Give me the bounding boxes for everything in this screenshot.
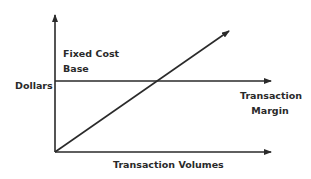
fixed-cost-label-line1: Fixed Cost <box>63 46 119 61</box>
margin-label-line1: Transaction <box>240 88 300 103</box>
y-axis-label: Dollars <box>15 78 53 93</box>
fixed-cost-label-line2: Base <box>63 61 119 76</box>
margin-label: Transaction Margin <box>240 88 300 118</box>
margin-label-line2: Margin <box>240 103 300 118</box>
x-axis-label: Transaction Volumes <box>113 157 224 172</box>
fixed-cost-label: Fixed Cost Base <box>63 46 119 76</box>
